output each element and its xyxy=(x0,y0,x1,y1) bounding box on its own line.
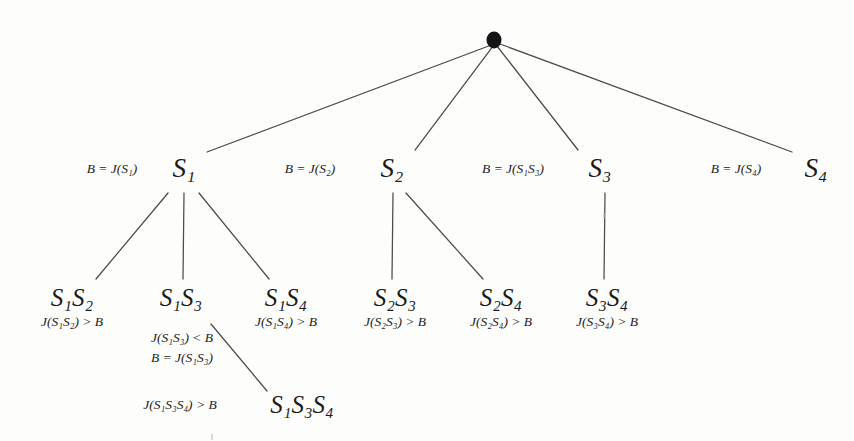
node-s1s3s4[interactable]: S₁S₃S₄ xyxy=(270,392,334,417)
condition-s2s3: J(S₂S₃) > B xyxy=(364,313,426,332)
condition-s1s4: J(S₁S₄) > B xyxy=(255,313,317,332)
node-s1s3s4-label: S₁S₃S₄ xyxy=(270,392,334,417)
node-s3-label: S₃ xyxy=(589,155,612,182)
tree-edges-layer xyxy=(0,0,854,441)
edge-s1-to-s1s2 xyxy=(96,193,168,279)
node-s2s3-label: S₂S₃ xyxy=(374,285,416,310)
node-s2s4[interactable]: S₂S₄ xyxy=(480,285,522,310)
node-s2-label: S₂ xyxy=(381,155,404,182)
node-s3s4[interactable]: S₃S₄ xyxy=(586,285,628,310)
tree-diagram-canvas: S₁ B = J(S₁) S₂ B = J(S₂) S₃ B = J(S₁S₃)… xyxy=(0,0,854,441)
edge-s1-to-s1s4 xyxy=(199,193,269,279)
condition-s1s3s4: J(S₁S₃S₄) > B xyxy=(143,396,216,415)
condition-s4: B = J(S₄) xyxy=(711,160,762,179)
node-s1s3[interactable]: S₁S₃ xyxy=(160,285,202,310)
edge-root-to-s2 xyxy=(415,46,493,150)
edge-root-to-s4 xyxy=(500,44,792,152)
node-s1[interactable]: S₁ xyxy=(173,155,196,182)
edge-root-to-s1 xyxy=(207,44,494,152)
edge-s1-to-s1s3 xyxy=(183,193,184,279)
condition-s1s3-first: J(S₁S₃) < B xyxy=(151,329,213,348)
edge-s2-to-s2s4 xyxy=(406,193,483,279)
condition-s1: B = J(S₁) xyxy=(87,160,138,179)
node-s1-label: S₁ xyxy=(173,155,196,182)
condition-s2s4: J(S₂S₄) > B xyxy=(470,313,532,332)
condition-s2: B = J(S₂) xyxy=(285,160,336,179)
node-s2[interactable]: S₂ xyxy=(381,155,404,182)
edge-root-to-s3 xyxy=(497,46,578,150)
scan-artifact-2 xyxy=(211,434,213,440)
condition-s1s2: J(S₁S₂) > B xyxy=(41,313,103,332)
node-s1s4-label: S₁S₄ xyxy=(265,285,307,310)
edge-s3-to-s3s4 xyxy=(604,193,605,279)
node-s1s2[interactable]: S₁S₂ xyxy=(51,285,93,310)
condition-s3: B = J(S₁S₃) xyxy=(482,160,544,179)
node-s4[interactable]: S₄ xyxy=(805,155,828,182)
root-node[interactable] xyxy=(487,32,502,49)
condition-s3s4: J(S₃S₄) > B xyxy=(576,313,638,332)
node-s2s4-label: S₂S₄ xyxy=(480,285,522,310)
node-s2s3[interactable]: S₂S₃ xyxy=(374,285,416,310)
scan-artifact-1 xyxy=(603,213,605,218)
condition-s1s3-second: B = J(S₁S₃) xyxy=(151,349,213,368)
edge-s1s3-to-s1s3s4 xyxy=(211,324,267,391)
node-s3[interactable]: S₃ xyxy=(589,155,612,182)
node-s1s2-label: S₁S₂ xyxy=(51,285,93,310)
node-s3s4-label: S₃S₄ xyxy=(586,285,628,310)
node-s1s3-label: S₁S₃ xyxy=(160,285,202,310)
edge-s2-to-s2s3 xyxy=(392,193,393,279)
node-s1s4[interactable]: S₁S₄ xyxy=(265,285,307,310)
node-s4-label: S₄ xyxy=(805,155,828,182)
